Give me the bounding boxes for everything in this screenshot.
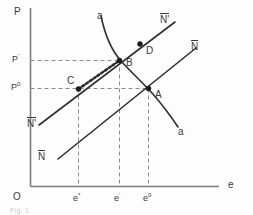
figure-caption: Fig. 1 xyxy=(10,207,29,214)
point-label-a: A xyxy=(155,90,162,99)
axes-group xyxy=(31,8,220,187)
curve-label-n-bar-prime-bottom: N' xyxy=(27,119,36,128)
x-tick-e-prime-sup: ' xyxy=(119,192,120,198)
y-axis-label: P xyxy=(14,7,21,16)
figure-canvas: P e O P' P0 e* e' e0 a a N' N' N N A B C… xyxy=(0,0,253,215)
y-tick-p-zero-sup: 0 xyxy=(17,81,20,87)
curve-label-a-bottom: a xyxy=(178,127,184,136)
y-tick-p-zero: P0 xyxy=(11,83,20,92)
adjustment-path-c-to-b xyxy=(79,61,120,90)
curve-label-n-bar-top: N xyxy=(191,42,198,51)
curve-label-n-bar-prime-bottom-text: N' xyxy=(27,119,36,128)
x-axis-label: e xyxy=(228,180,234,189)
point-label-d: D xyxy=(146,46,153,55)
origin-label: O xyxy=(13,192,21,201)
x-tick-e-star: e* xyxy=(73,194,80,203)
curve-label-n-bar-top-text: N xyxy=(191,42,198,51)
economics-diagram-svg xyxy=(0,0,253,215)
x-tick-e-prime: e' xyxy=(114,194,120,203)
x-tick-e-zero: e0 xyxy=(143,194,151,203)
point-marker-d xyxy=(137,41,142,46)
point-label-b: B xyxy=(126,58,133,67)
x-tick-e-star-sup: * xyxy=(78,192,80,198)
y-tick-p-prime-sup: ' xyxy=(18,53,19,59)
curve-label-n-bar-bottom-text: N xyxy=(38,152,45,161)
point-label-c: C xyxy=(67,76,74,85)
guide-lines-group xyxy=(31,61,149,187)
point-marker-c xyxy=(76,86,81,91)
y-tick-p-prime: P' xyxy=(12,55,19,64)
point-marker-a xyxy=(146,86,151,91)
curve-label-a-top: a xyxy=(97,11,103,20)
curve-label-n-bar-prime-top-text: N' xyxy=(160,15,169,24)
curve-label-n-bar-prime-top: N' xyxy=(160,15,169,24)
point-marker-b xyxy=(117,58,122,63)
x-tick-e-zero-sup: 0 xyxy=(148,192,151,198)
curve-label-n-bar-bottom: N xyxy=(38,152,45,161)
